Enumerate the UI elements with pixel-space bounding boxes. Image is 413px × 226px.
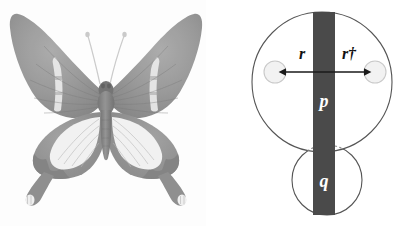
specimen-photo-panel: [0, 0, 206, 226]
schematic-diagram-panel: r r† p q: [206, 0, 413, 226]
label-q: q: [320, 171, 329, 191]
node-right-circle: [364, 61, 386, 83]
label-r-dagger: r†: [342, 45, 357, 62]
schematic-diagram: r r† p q: [206, 0, 413, 226]
label-r: r: [299, 45, 306, 62]
photo-grain-overlay: [0, 0, 206, 226]
butterfly-specimen-image: [0, 0, 206, 226]
node-left-circle: [264, 61, 286, 83]
figure-root: r r† p q: [0, 0, 413, 226]
label-p: p: [318, 91, 329, 111]
